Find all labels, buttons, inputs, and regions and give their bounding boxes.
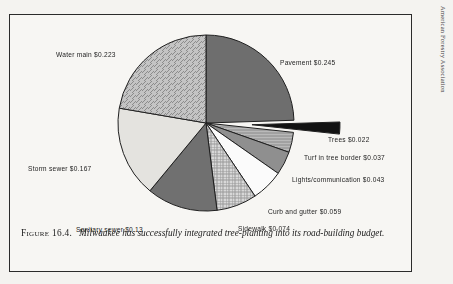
pie-slice-label-turf-in-tree-border: Turf in tree border $0.037: [304, 154, 385, 161]
figure-caption: Figure 16.4.Milwaukee has successfully i…: [21, 227, 401, 240]
pie-slice-label-lights-communication: Lights/communication $0.043: [292, 176, 385, 183]
pie-slice-label-storm-sewer: Storm sewer $0.167: [28, 165, 92, 172]
pie-slice-label-trees: Trees $0.022: [328, 136, 370, 143]
running-head: American Forestry Association: [435, 6, 449, 146]
pie-slice-label-pavement: Pavement $0.245: [280, 59, 335, 66]
figure-caption-text: Milwaukee has successfully integrated tr…: [79, 228, 384, 238]
pie-chart-canvas: [10, 15, 413, 223]
pie-slice-label-water-main: Water main $0.223: [56, 51, 116, 58]
figure-number: Figure 16.4.: [21, 228, 72, 238]
pie-chart: Pavement $0.245Trees $0.022Turf in tree …: [10, 15, 413, 223]
figure-frame: Pavement $0.245Trees $0.022Turf in tree …: [9, 14, 412, 272]
page-background: American Forestry Association Pavement $…: [0, 0, 453, 284]
running-head-label: American Forestry Association: [440, 6, 447, 93]
pie-slice-label-curb-and-gutter: Curb and gutter $0.059: [268, 208, 341, 215]
